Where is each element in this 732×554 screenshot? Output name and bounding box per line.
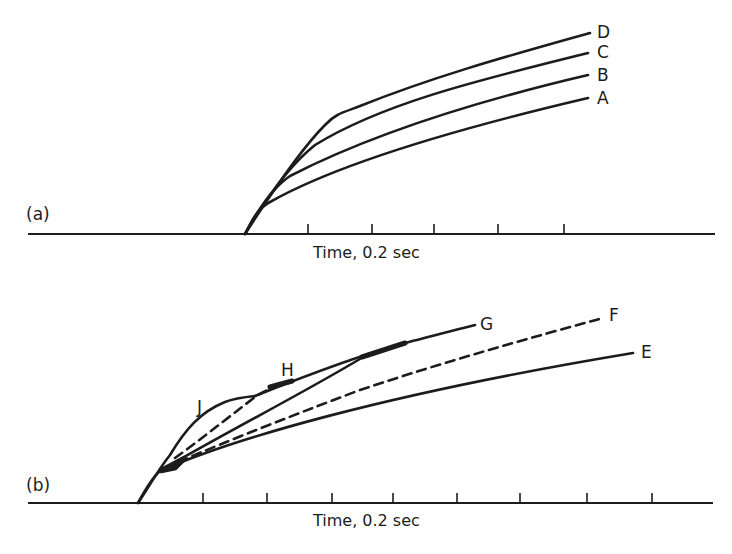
curve-label-g: G <box>480 316 493 333</box>
panel-b-label: (b) <box>26 477 50 494</box>
curve-h <box>175 382 292 458</box>
curve-label-f: F <box>609 307 619 324</box>
curve-a <box>245 98 588 234</box>
curve-label-e: E <box>641 344 652 361</box>
curve-label-b: B <box>597 67 609 84</box>
curve-label-c: C <box>597 44 609 61</box>
curve-e <box>138 353 633 503</box>
panel-a-label: (a) <box>26 206 50 223</box>
figure: (a) Time, 0.2 sec A B C D (b) Time, 0.2 … <box>0 0 732 554</box>
panel-a-axis-label: Time, 0.2 sec <box>313 245 420 261</box>
curve-d <box>245 33 590 234</box>
curve-label-j: J <box>197 399 202 416</box>
panel-b-axis-label: Time, 0.2 sec <box>313 513 420 529</box>
panel-b-overlap-2 <box>270 381 292 387</box>
panel-b-overlap-1 <box>362 343 405 357</box>
curve-label-a: A <box>597 90 609 107</box>
curve-straight <box>165 356 365 468</box>
curve-label-d: D <box>597 24 610 41</box>
diagram-canvas <box>0 0 732 554</box>
curve-label-h: H <box>281 362 294 379</box>
